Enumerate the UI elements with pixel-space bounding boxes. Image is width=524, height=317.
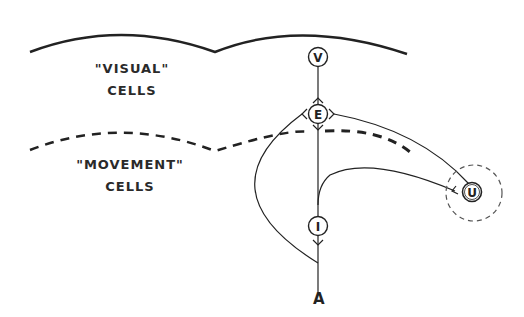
node-u-label: U — [467, 186, 477, 200]
node-u: U — [463, 183, 482, 202]
movement-cells-line2: CELLS — [60, 176, 200, 198]
movement-cells-label: "MOVEMENT" CELLS — [60, 154, 200, 198]
u-to-i-path — [318, 168, 455, 205]
visual-cells-line1: "VISUAL" — [82, 58, 182, 80]
synapse-e-right — [329, 109, 334, 119]
movement-layer-boundary-right — [325, 131, 410, 152]
visual-layer-boundary — [30, 35, 407, 54]
visual-cells-line2: CELLS — [82, 80, 182, 102]
saccade-circuit-diagram: V E I U "VISUAL" CELLS "MOVEMENT" CELLS … — [0, 0, 524, 317]
movement-cells-line1: "MOVEMENT" — [60, 154, 200, 176]
synapse-u-left — [452, 186, 458, 194]
node-e-label: E — [314, 108, 322, 122]
node-i: I — [309, 217, 328, 236]
node-v-label: V — [313, 51, 323, 65]
e-to-u-path — [334, 114, 469, 184]
node-v: V — [309, 48, 328, 67]
visual-cells-label: "VISUAL" CELLS — [82, 58, 182, 102]
node-i-label: I — [316, 220, 320, 234]
synapse-e-left — [302, 109, 307, 119]
output-a-label: A — [313, 290, 325, 308]
movement-layer-boundary — [30, 131, 310, 151]
node-e: E — [309, 105, 328, 124]
